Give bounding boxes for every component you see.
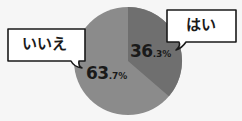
pct-yes-dec: .3% [153,49,172,59]
pct-label-yes: 36.3% [130,43,171,60]
pct-label-no: 63.7% [86,65,127,82]
pct-no-dec: .7% [109,71,128,81]
pct-no-int: 63 [86,63,109,83]
callout-yes-label: はい [186,18,216,33]
pct-yes-int: 36 [130,41,153,61]
callout-no-label: いいえ [22,37,67,52]
